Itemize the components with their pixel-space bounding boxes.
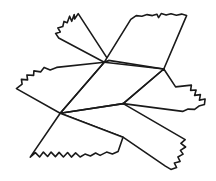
- woven-strips-figure: Woven paper strips Line drawing of four …: [0, 0, 216, 181]
